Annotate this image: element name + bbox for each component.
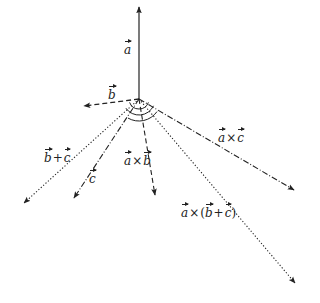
label-a-cross-b: a×b [124,155,151,167]
angle-arc-inner [130,102,149,109]
label-b: b [108,89,116,101]
label-a: a [124,44,131,56]
label-b-plus-c: b+c [44,152,70,164]
label-c: c [89,173,96,185]
angle-arc-middle [126,106,154,115]
label-a-cross-b-plus-c: a×(b+c) [181,207,236,219]
label-a-cross-c: a×c [218,132,244,144]
vector-a-cross-b-plus-c [139,99,295,283]
vector-a-cross-c [139,99,294,190]
vector-b-plus-c [24,99,139,203]
